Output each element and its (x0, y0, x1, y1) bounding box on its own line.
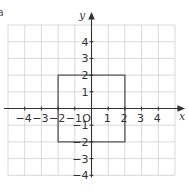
coordinate-grid: −4−3−2−112344321−1−2−3−4Oxy (0, 0, 188, 191)
x-tick-label: 4 (154, 112, 161, 125)
x-tick-label: 1 (104, 112, 111, 125)
x-tick-label: −2 (49, 112, 65, 125)
y-tick-label: −2 (72, 136, 88, 149)
y-tick-label: 2 (82, 69, 89, 82)
y-tick-label: −3 (72, 153, 88, 166)
axes (4, 13, 184, 177)
x-tick-label: −3 (32, 112, 48, 125)
x-tick-label: 3 (137, 112, 144, 125)
x-axis-label: x (179, 110, 186, 123)
origin-label: O (82, 112, 91, 125)
x-tick-label: 2 (120, 112, 127, 125)
y-tick-label: 3 (82, 52, 89, 65)
y-axis-label: y (78, 9, 86, 22)
y-tick-label: 1 (82, 86, 89, 99)
x-tick-label: −4 (16, 112, 32, 125)
y-tick-label: −4 (72, 169, 88, 182)
y-tick-label: 4 (82, 36, 89, 49)
